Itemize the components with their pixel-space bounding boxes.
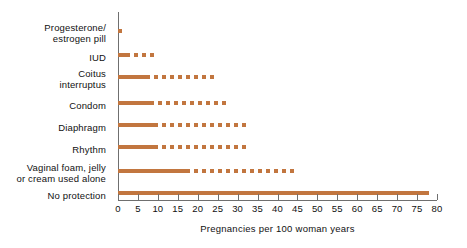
bar-segment-solid (118, 29, 122, 33)
x-axis-tick (337, 194, 338, 200)
x-axis-tick (118, 194, 119, 200)
category-label: Diaphragm (0, 122, 106, 133)
category-label: No protection (0, 190, 106, 201)
bar-chart: Progesterone/ estrogen pillIUDCoitus int… (0, 0, 467, 248)
x-axis-tick (258, 194, 259, 200)
bar-row (118, 50, 437, 61)
bar-segment-dashed (186, 169, 298, 173)
x-axis-tick (317, 194, 318, 200)
x-axis-tick (218, 194, 219, 200)
bar-segment-dashed (154, 145, 250, 149)
category-label: IUD (0, 52, 106, 63)
bar-segment-solid (118, 169, 186, 173)
bar-row (118, 166, 437, 177)
category-label-column: Progesterone/ estrogen pillIUDCoitus int… (0, 12, 112, 192)
bar-segment-dashed (126, 53, 154, 57)
x-axis-tick (198, 194, 199, 200)
category-label: Vaginal foam, jelly or cream used alone (0, 162, 106, 184)
x-axis: Pregnancies per 100 woman years 05101520… (118, 200, 437, 248)
x-axis-tick-label: 40 (272, 203, 283, 214)
bar-segment-dashed (154, 123, 250, 127)
bar-segment-solid (118, 191, 429, 195)
x-axis-tick (278, 194, 279, 200)
x-axis-tick (417, 194, 418, 200)
x-axis-tick-label: 75 (412, 203, 423, 214)
bar-row (118, 26, 437, 37)
x-axis-tick (138, 194, 139, 200)
bar-segment-solid (118, 75, 146, 79)
x-axis-tick (238, 194, 239, 200)
x-axis-tick (158, 194, 159, 200)
category-label: Progesterone/ estrogen pill (0, 22, 106, 44)
bar-row (118, 72, 437, 83)
category-label: Condom (0, 100, 106, 111)
x-axis-tick-label: 30 (232, 203, 243, 214)
category-label: Coitus interruptus (0, 68, 106, 90)
x-axis-tick-label: 50 (312, 203, 323, 214)
x-axis-tick-label: 45 (292, 203, 303, 214)
x-axis-tick (397, 194, 398, 200)
x-axis-tick-label: 55 (332, 203, 343, 214)
bar-segment-solid (118, 123, 154, 127)
x-axis-tick-label: 10 (152, 203, 163, 214)
x-axis-tick-label: 20 (192, 203, 203, 214)
category-label: Rhythm (0, 144, 106, 155)
x-axis-tick (357, 194, 358, 200)
x-axis-tick-label: 25 (212, 203, 223, 214)
x-axis-tick-label: 80 (432, 203, 443, 214)
x-axis-tick (377, 194, 378, 200)
plot-area (118, 12, 437, 192)
bar-segment-dashed (146, 75, 218, 79)
bar-segment-solid (118, 53, 126, 57)
x-axis-tick (297, 194, 298, 200)
bar-row (118, 142, 437, 153)
x-axis-tick-label: 35 (252, 203, 263, 214)
x-axis-tick (178, 194, 179, 200)
x-axis-tick-label: 70 (392, 203, 403, 214)
x-axis-title: Pregnancies per 100 woman years (118, 223, 437, 234)
x-axis-tick (437, 194, 438, 200)
x-axis-tick-label: 60 (352, 203, 363, 214)
x-axis-tick-label: 65 (372, 203, 383, 214)
x-axis-line (118, 200, 437, 201)
bar-segment-solid (118, 145, 154, 149)
bar-segment-solid (118, 101, 150, 105)
x-axis-tick-label: 5 (135, 203, 140, 214)
bar-segment-dashed (150, 101, 230, 105)
x-axis-tick-label: 0 (115, 203, 120, 214)
x-axis-tick-label: 15 (172, 203, 183, 214)
bar-row (118, 120, 437, 131)
bar-row (118, 98, 437, 109)
